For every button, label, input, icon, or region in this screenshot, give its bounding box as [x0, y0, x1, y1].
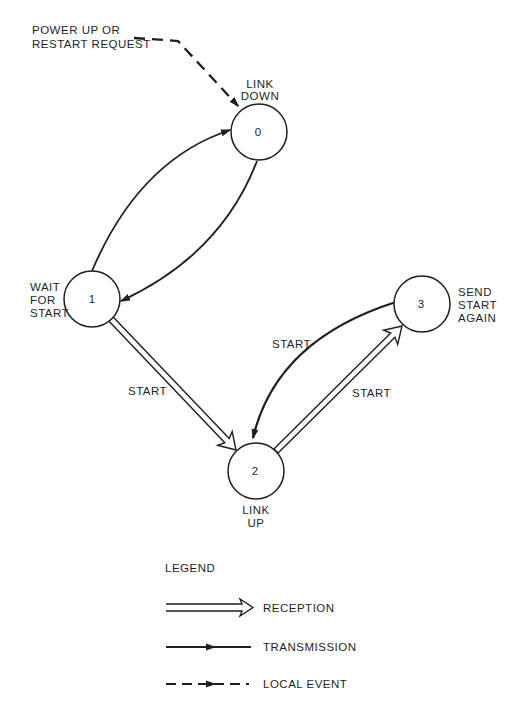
legend-transmission-label: TRANSMISSION	[263, 641, 357, 653]
transmission-arrow-state1-to-state0	[92, 130, 230, 271]
svg-text:WAIT: WAIT	[30, 281, 60, 293]
legend-local-event-label: LOCAL EVENT	[263, 678, 347, 690]
legend-transmission-arrowhead	[206, 644, 216, 651]
state-label-link-down: LINK DOWN	[241, 78, 279, 102]
transition-label-start-2to3: START	[352, 387, 391, 399]
powerup-annotation-line2: RESTART REQUEST	[32, 38, 151, 50]
legend-local-event-arrowhead	[206, 681, 216, 688]
transition-label-start-1to2: START	[128, 385, 167, 397]
transmission-arrow-state3-to-state2	[253, 302, 396, 438]
state-label-link-up: LINK UP	[242, 504, 270, 529]
svg-text:DOWN: DOWN	[241, 90, 279, 102]
legend-reception-arrow-icon	[166, 599, 253, 616]
state-number-3: 3	[418, 298, 424, 310]
powerup-annotation: POWER UP OR RESTART REQUEST	[32, 24, 151, 50]
transition-label-start-3to2: START	[272, 338, 311, 350]
state-diagram: 0 1 2 3 POWER UP OR RESTART REQUEST LINK…	[0, 0, 524, 713]
powerup-annotation-line1: POWER UP OR	[32, 24, 120, 36]
svg-text:AGAIN: AGAIN	[458, 312, 496, 324]
svg-text:LINK: LINK	[246, 78, 274, 90]
state-number-1: 1	[89, 293, 95, 305]
svg-text:SEND: SEND	[458, 286, 492, 298]
svg-text:LINK: LINK	[242, 504, 270, 516]
state-label-send-start-again: SEND START AGAIN	[458, 286, 497, 324]
state-number-2: 2	[252, 465, 258, 477]
legend-reception-label: RECEPTION	[263, 602, 335, 614]
svg-text:UP: UP	[248, 517, 265, 529]
legend: LEGEND RECEPTION TRANSMISSION LOCAL EVEN…	[165, 562, 357, 690]
legend-title: LEGEND	[165, 562, 215, 574]
scanned-diagram-page: 0 1 2 3 POWER UP OR RESTART REQUEST LINK…	[0, 0, 524, 713]
reception-arrow-state1-to-state2	[109, 317, 236, 450]
state-number-0: 0	[255, 126, 261, 138]
transmission-arrow-state0-to-state1	[121, 161, 257, 301]
svg-text:START: START	[458, 299, 497, 311]
svg-text:START: START	[30, 307, 69, 319]
svg-text:FOR: FOR	[30, 294, 56, 306]
